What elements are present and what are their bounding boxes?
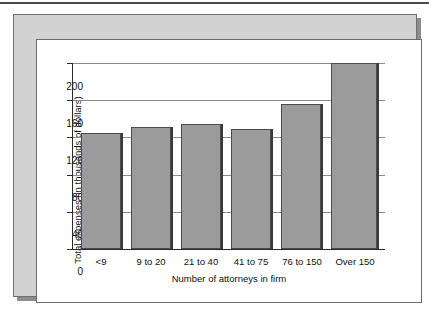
- x-tick-label-76-150: 76 to 150: [276, 256, 328, 267]
- bar-9-to-20[interactable]: [131, 127, 171, 249]
- x-tick-label-over-150: Over 150: [329, 256, 381, 267]
- y-tick-120: [67, 137, 72, 138]
- bar-76-to-150[interactable]: [281, 104, 321, 249]
- x-tick-label-9-20: 9 to 20: [126, 256, 176, 267]
- bar-41-to-75[interactable]: [231, 129, 271, 249]
- page-top-rule: [0, 2, 429, 4]
- y-tick-160: [67, 100, 72, 101]
- bar-lt9[interactable]: [81, 133, 121, 249]
- x-tick-label-41-75: 41 to 75: [226, 256, 276, 267]
- figure-container: Total expenses (in thousands of dollars)…: [0, 0, 429, 317]
- y-tick-80: [67, 175, 72, 176]
- chart-outer-frame: Total expenses (in thousands of dollars)…: [13, 14, 417, 297]
- x-tick-label-lt9: <9: [76, 256, 126, 267]
- y-tick-0: [67, 249, 72, 250]
- x-axis-line: [73, 249, 385, 250]
- y-tick-200: [67, 63, 72, 64]
- y-tick-40: [67, 212, 72, 213]
- x-axis-title: Number of attorneys in firm: [73, 273, 385, 284]
- plot-area: <9 9 to 20 21 to 40 41 to 75 76 to 150 O…: [73, 63, 385, 249]
- x-tick-label-21-40: 21 to 40: [176, 256, 226, 267]
- bar-over-150[interactable]: [331, 63, 377, 249]
- bar-21-to-40[interactable]: [181, 124, 221, 249]
- chart-plot-panel: Total expenses (in thousands of dollars)…: [36, 39, 422, 303]
